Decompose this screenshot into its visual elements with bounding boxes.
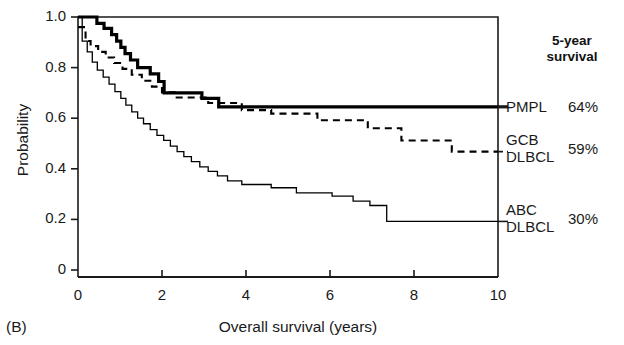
x-axis-title: Overall survival (years): [188, 318, 408, 336]
panel-label: (B): [6, 318, 27, 336]
survival-chart-figure: 1.0 0.8 0.6 0.4 0.2 0 0 2 4 6 8 10 Proba…: [0, 0, 624, 345]
y-axis-title: Probability: [14, 85, 32, 195]
x-axis-ticks: [78, 270, 498, 277]
y-tick-label: 1.0: [22, 7, 66, 24]
y-tick-label: 0: [22, 260, 66, 277]
x-tick-label: 8: [394, 286, 434, 303]
survival-curves: [78, 17, 498, 221]
x-tick-label: 10: [478, 286, 518, 303]
legend-value-pmpl: 64%: [568, 98, 598, 115]
y-tick-label: 0.8: [22, 58, 66, 75]
curve-abc-dlbcl: [78, 17, 498, 221]
legend-value-abc-dlbcl: 30%: [568, 210, 598, 227]
y-axis-ticks: [71, 17, 78, 270]
legend-label-gcb-dlbcl-line2: DLBCL: [506, 148, 554, 165]
curve-gcb-dlbcl: [78, 27, 498, 151]
curve-pmpl: [78, 17, 498, 107]
legend-label-abc-dlbcl-line1: ABC: [506, 201, 537, 218]
y-tick-label: 0.2: [22, 209, 66, 226]
legend-value-gcb-dlbcl: 59%: [568, 140, 598, 157]
legend-label-pmpl: PMPL: [506, 98, 547, 115]
x-tick-label: 0: [58, 286, 98, 303]
legend-header-line2: survival: [524, 49, 620, 64]
legend-header-line1: 5-year: [524, 33, 620, 48]
x-tick-label: 6: [310, 286, 350, 303]
plot-frame: [78, 17, 498, 277]
legend-label-abc-dlbcl-line2: DLBCL: [506, 218, 554, 235]
plot-border: [78, 17, 498, 270]
legend-label-gcb-dlbcl-line1: GCB: [506, 131, 539, 148]
x-tick-label: 2: [142, 286, 182, 303]
x-tick-label: 4: [226, 286, 266, 303]
